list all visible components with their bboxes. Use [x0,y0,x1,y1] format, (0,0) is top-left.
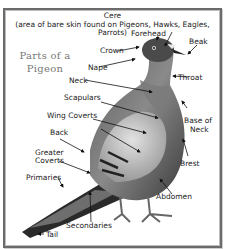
label-secondaries: Secondaries [66,222,112,230]
label-tail: Tail [46,231,58,239]
diagram-title: Parts of a Pigeon [14,50,76,75]
head-shape [142,38,174,62]
label-abdomen: Abdomen [156,193,192,201]
label-wing-coverts: Wing Coverts [47,112,97,120]
label-scapulars: Scapulars [64,94,101,102]
label-greater-coverts-2: Coverts [35,157,64,165]
cere-note: (area of bare skin found on Pigeons, Haw… [0,21,225,37]
label-crown: Crown [100,47,124,55]
label-brest: Brest [180,160,200,168]
label-primaries: Primaries [26,174,61,182]
cere-label: Cere [0,12,225,20]
label-forehead: Forehead [131,30,166,38]
title-line-2: Pigeon [14,63,76,76]
title-line-1: Parts of a [14,50,76,63]
label-throat: Throat [178,74,202,82]
label-beak: Beak [189,38,208,46]
label-neck: Neck [69,77,88,85]
label-nape: Nape [88,64,108,72]
label-base-of-neck-1: Base of [184,117,212,125]
label-base-of-neck-2: Neck [190,126,209,134]
label-back: Back [50,129,68,137]
